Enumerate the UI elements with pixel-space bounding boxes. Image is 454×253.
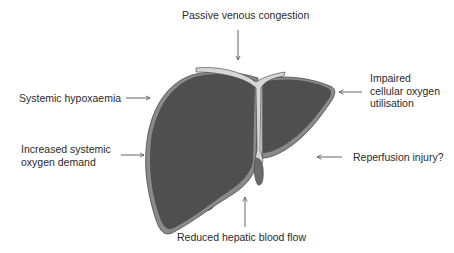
liver-left-lobe — [263, 80, 331, 153]
label-reduced-hepatic-blood-flow: Reduced hepatic blood flow — [177, 231, 306, 244]
label-impaired-line3: utilisation — [370, 97, 440, 110]
label-increased-oxygen-demand: Increased systemic oxygen demand — [21, 143, 111, 168]
label-increased-oxygen-demand-line2: oxygen demand — [21, 156, 111, 169]
label-increased-oxygen-demand-line1: Increased systemic — [21, 143, 111, 156]
label-passive-venous-congestion: Passive venous congestion — [182, 9, 309, 22]
label-impaired-line1: Impaired — [370, 72, 440, 85]
liver-diagram — [0, 0, 454, 253]
label-systemic-hypoxaemia: Systemic hypoxaemia — [19, 92, 121, 105]
liver-illustration — [146, 68, 335, 234]
label-reperfusion-injury: Reperfusion injury? — [353, 151, 443, 164]
label-impaired-line2: cellular oxygen — [370, 85, 440, 98]
label-impaired-cellular-oxygen-utilisation: Impaired cellular oxygen utilisation — [370, 72, 440, 110]
